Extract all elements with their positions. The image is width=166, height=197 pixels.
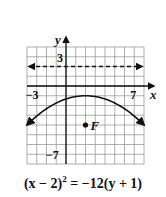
- y-tick-label-neg: −7: [46, 148, 59, 162]
- focus-label: F: [90, 118, 100, 133]
- parabola-graph: F −3 7 3 −7 x y: [0, 0, 166, 197]
- parabola-equation: (x − 2)2 = −12(y + 1): [0, 174, 166, 192]
- y-tick-label-pos: 3: [57, 51, 63, 65]
- equation-rhs: = −12(y + 1): [67, 176, 142, 191]
- equation-lhs: (x − 2): [24, 176, 62, 191]
- x-axis-label: x: [149, 87, 157, 102]
- grid-lines: [27, 47, 144, 164]
- focus-point: [83, 122, 88, 127]
- x-tick-label-pos: 7: [130, 88, 136, 102]
- y-axis-label: y: [53, 32, 61, 47]
- x-tick-label-neg: −3: [26, 88, 39, 102]
